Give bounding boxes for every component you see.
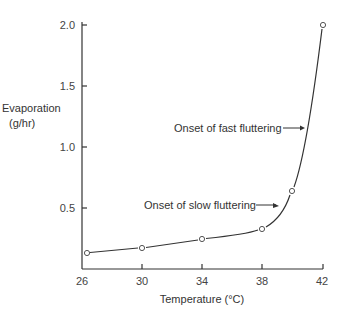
annotation-fast-fluttering: Onset of fast fluttering	[174, 122, 282, 134]
arrow-icon	[283, 126, 305, 131]
x-axis-label: Temperature (°C)	[160, 293, 244, 305]
svg-text:1.5: 1.5	[60, 80, 75, 92]
y-axis-label-line1: Evaporation	[2, 102, 61, 114]
svg-text:26: 26	[76, 275, 88, 287]
svg-text:38: 38	[256, 275, 268, 287]
y-tick-labels: 2.0 1.5 1.0 0.5	[60, 19, 75, 214]
arrow-icon	[256, 203, 279, 208]
data-point	[289, 188, 294, 193]
data-point	[139, 245, 144, 250]
data-point	[84, 250, 89, 255]
svg-text:2.0: 2.0	[60, 19, 75, 31]
y-axis-label-line2: (g/hr)	[9, 117, 35, 129]
svg-text:0.5: 0.5	[60, 202, 75, 214]
data-point	[199, 236, 204, 241]
svg-text:1.0: 1.0	[60, 141, 75, 153]
data-point	[320, 22, 325, 27]
annotation-slow-fluttering: Onset of slow fluttering	[144, 199, 256, 211]
svg-text:34: 34	[196, 275, 208, 287]
evaporation-chart: 2.0 1.5 1.0 0.5 26 30 34 38 42 Temperatu…	[0, 0, 348, 315]
data-point	[259, 226, 264, 231]
svg-text:30: 30	[136, 275, 148, 287]
evaporation-curve	[90, 29, 322, 253]
x-ticks	[142, 264, 323, 269]
data-points	[84, 22, 325, 255]
svg-text:42: 42	[316, 275, 328, 287]
y-ticks	[82, 25, 87, 208]
x-tick-labels: 26 30 34 38 42	[76, 275, 328, 287]
